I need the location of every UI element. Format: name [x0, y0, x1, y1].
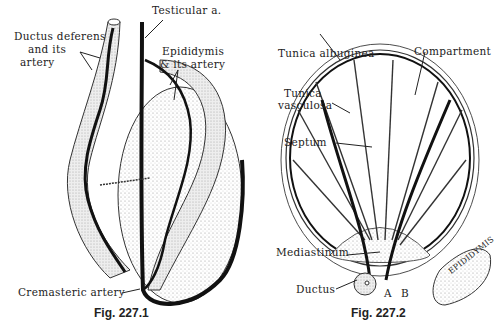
label-epididymis-artery: & its artery — [160, 58, 225, 70]
label-a: A — [384, 287, 392, 299]
label-ductus: Ductus — [296, 283, 335, 295]
label-mediastinum: Mediastinum — [276, 246, 349, 258]
label-vasculosa: vasculosa — [278, 99, 332, 111]
label-ductus-and-its: and its — [28, 43, 66, 55]
label-ductus-deferens: Ductus deferens — [14, 30, 106, 42]
label-b: B — [401, 287, 409, 299]
caption-fig-227-2: Fig. 227.2 — [351, 306, 406, 320]
label-tunica: Tunica — [284, 87, 322, 99]
caption-fig-227-1: Fig. 227.1 — [94, 306, 149, 320]
label-septum: Septum — [284, 136, 327, 148]
label-tunica-albuginea: Tunica albuginea — [278, 47, 375, 59]
label-epididymis: Epididymis — [162, 45, 224, 57]
label-ductus-artery: artery — [20, 56, 54, 68]
label-cremasteric-artery: Cremasteric artery — [18, 286, 125, 298]
label-compartment: Compartment — [414, 45, 491, 57]
label-testicular-artery: Testicular a. — [152, 4, 221, 16]
ductus-deferens — [67, 22, 130, 278]
